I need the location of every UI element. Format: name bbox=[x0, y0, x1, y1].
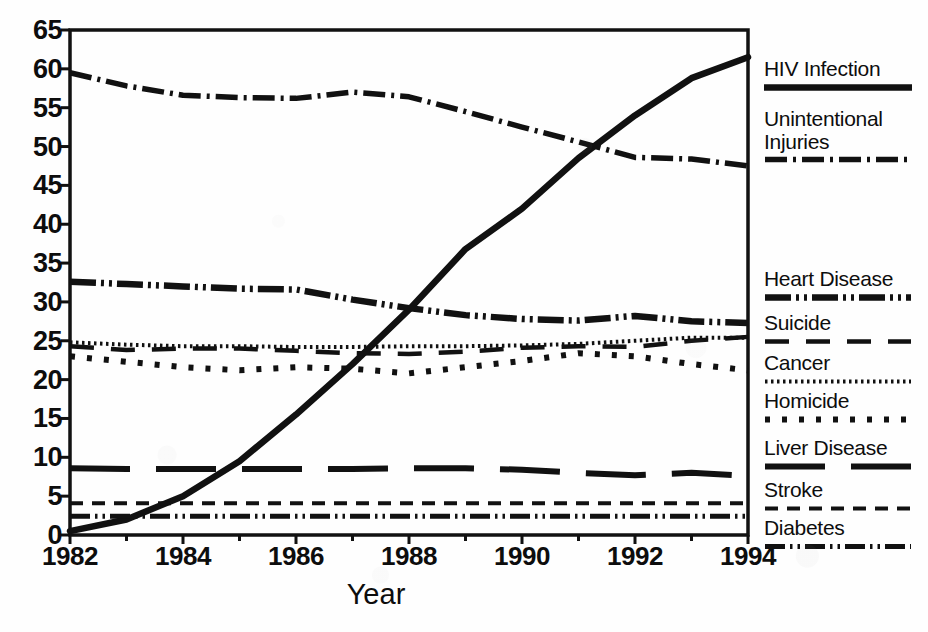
y-tick-label: 50 bbox=[8, 134, 62, 161]
y-tick-label: 5 bbox=[8, 483, 62, 510]
legend-swatch-stroke bbox=[764, 504, 912, 513]
x-tick-label: 1988 bbox=[364, 543, 454, 569]
x-tick-label: 1992 bbox=[590, 543, 680, 569]
series-line-liver-disease bbox=[70, 468, 748, 476]
legend-swatch-suicide bbox=[764, 337, 912, 346]
y-tick-label: 40 bbox=[8, 211, 62, 238]
y-tick-label: 65 bbox=[8, 17, 62, 44]
legend-entry[interactable]: Diabetes bbox=[764, 517, 928, 551]
y-tick-label: 25 bbox=[8, 328, 62, 355]
legend-swatch-unintentional-injuries bbox=[764, 155, 912, 164]
legend-swatch-hiv-infection bbox=[764, 83, 912, 92]
legend-label: Liver Disease bbox=[764, 437, 928, 460]
y-tick-label: 35 bbox=[8, 250, 62, 277]
y-tick-label: 15 bbox=[8, 405, 62, 432]
y-axis-tick-labels: 05101520253035404550556065 bbox=[0, 0, 62, 632]
series-line-hiv-infection bbox=[70, 57, 748, 531]
y-tick-label: 20 bbox=[8, 367, 62, 394]
legend-swatch-liver-disease bbox=[764, 462, 912, 471]
data-series-group bbox=[70, 57, 748, 531]
x-tick-label: 1984 bbox=[138, 543, 228, 569]
legend-entry[interactable]: Unintentional Injuries bbox=[764, 108, 928, 164]
x-axis-tick-labels: 1982198419861988199019921994 bbox=[0, 543, 760, 583]
legend-swatch-diabetes bbox=[764, 542, 912, 551]
y-tick-label: 60 bbox=[8, 56, 62, 83]
legend-label: Unintentional Injuries bbox=[764, 108, 928, 153]
y-tick-label: 10 bbox=[8, 444, 62, 471]
legend-entry[interactable]: Suicide bbox=[764, 312, 928, 346]
legend-label: Heart Disease bbox=[764, 268, 928, 291]
legend-entry[interactable]: Homicide bbox=[764, 390, 928, 424]
legend-entry[interactable]: Cancer bbox=[764, 352, 928, 386]
chart-page: 05101520253035404550556065 1982198419861… bbox=[0, 0, 928, 632]
legend-entry[interactable]: Stroke bbox=[764, 479, 928, 513]
x-axis-title: Year bbox=[0, 578, 752, 611]
legend-label: Diabetes bbox=[764, 517, 928, 540]
chart-legend: HIV InfectionUnintentional InjuriesHeart… bbox=[758, 0, 928, 632]
y-tick-label: 30 bbox=[8, 289, 62, 316]
legend-swatch-cancer bbox=[764, 377, 912, 386]
legend-label: Stroke bbox=[764, 479, 928, 502]
legend-swatch-heart-disease bbox=[764, 293, 912, 302]
y-tick-label: 45 bbox=[8, 172, 62, 199]
legend-entry[interactable]: Liver Disease bbox=[764, 437, 928, 471]
legend-label: Homicide bbox=[764, 390, 928, 413]
legend-entry[interactable]: Heart Disease bbox=[764, 268, 928, 302]
legend-entry[interactable]: HIV Infection bbox=[764, 58, 928, 92]
legend-label: Cancer bbox=[764, 352, 928, 375]
legend-swatch-homicide bbox=[764, 415, 912, 424]
x-tick-label: 1986 bbox=[251, 543, 341, 569]
legend-label: HIV Infection bbox=[764, 58, 928, 81]
series-line-heart-disease bbox=[70, 282, 748, 323]
legend-label: Suicide bbox=[764, 312, 928, 335]
x-tick-label: 1982 bbox=[25, 543, 115, 569]
series-line-homicide bbox=[70, 353, 748, 373]
y-tick-label: 55 bbox=[8, 95, 62, 122]
x-tick-label: 1990 bbox=[477, 543, 567, 569]
series-line-unintentional-injuries bbox=[70, 73, 748, 166]
